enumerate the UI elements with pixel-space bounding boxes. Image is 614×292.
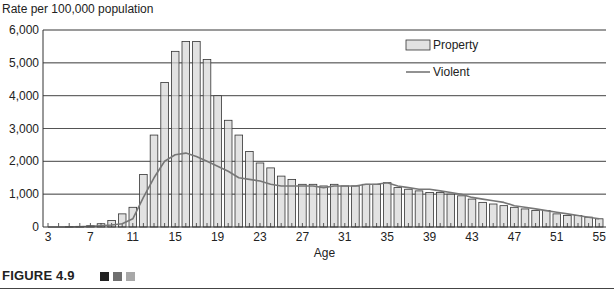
svg-text:19: 19 bbox=[211, 230, 225, 244]
svg-text:27: 27 bbox=[296, 230, 310, 244]
svg-text:55: 55 bbox=[593, 230, 607, 244]
square-dark bbox=[100, 272, 109, 281]
figure-decoration-squares bbox=[100, 272, 135, 281]
svg-text:3,000: 3,000 bbox=[9, 122, 39, 136]
svg-text:51: 51 bbox=[550, 230, 564, 244]
svg-text:2,000: 2,000 bbox=[9, 154, 39, 168]
svg-text:7: 7 bbox=[87, 230, 94, 244]
svg-text:6,000: 6,000 bbox=[9, 23, 39, 37]
square-mid bbox=[113, 272, 122, 281]
square-light bbox=[126, 272, 135, 281]
svg-text:39: 39 bbox=[423, 230, 437, 244]
svg-text:35: 35 bbox=[381, 230, 395, 244]
svg-text:11: 11 bbox=[127, 230, 140, 244]
figure-caption: FIGURE 4.9 bbox=[2, 268, 75, 283]
svg-text:4,000: 4,000 bbox=[9, 89, 39, 103]
svg-text:43: 43 bbox=[465, 230, 479, 244]
age-crime-rate-chart: 01,0002,0003,0004,0005,0006,000371115192… bbox=[0, 0, 614, 262]
svg-text:15: 15 bbox=[169, 230, 183, 244]
svg-text:Violent: Violent bbox=[433, 65, 470, 79]
svg-text:31: 31 bbox=[338, 230, 352, 244]
svg-text:Age: Age bbox=[314, 246, 336, 260]
svg-text:0: 0 bbox=[32, 220, 39, 234]
svg-text:Property: Property bbox=[433, 38, 478, 52]
svg-text:47: 47 bbox=[508, 230, 522, 244]
svg-text:23: 23 bbox=[253, 230, 267, 244]
figure-divider bbox=[0, 288, 614, 289]
svg-text:3: 3 bbox=[45, 230, 52, 244]
svg-text:1,000: 1,000 bbox=[9, 187, 39, 201]
svg-text:5,000: 5,000 bbox=[9, 56, 39, 70]
